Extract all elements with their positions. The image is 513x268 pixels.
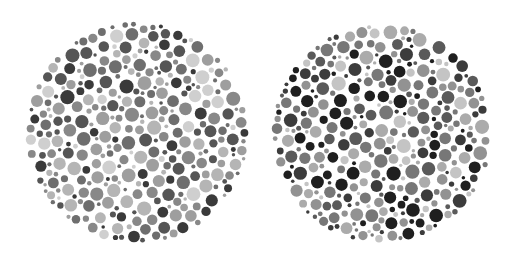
dot-pattern-right <box>271 22 493 244</box>
color-test-plate-left: Plate 1 <box>25 21 249 245</box>
dot-pattern-left <box>25 21 249 245</box>
color-test-plate-right: Plate 2 <box>271 22 493 244</box>
